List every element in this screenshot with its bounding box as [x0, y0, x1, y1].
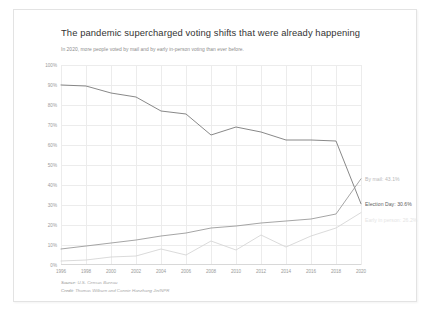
y-axis-tick-label: 70% [48, 123, 57, 128]
x-axis-tick-label: 1996 [56, 269, 66, 274]
x-axis-tick-label: 2000 [106, 269, 116, 274]
x-axis-tick-label: 2014 [281, 269, 291, 274]
y-axis-tick-label: 90% [48, 83, 57, 88]
annotation-election-day: Election Day: 30.6% [365, 201, 412, 207]
y-axis-tick-label: 20% [48, 223, 57, 228]
chart-title: The pandemic supercharged voting shifts … [61, 27, 401, 39]
x-axis-tick-label: 2020 [356, 269, 366, 274]
source-label: Source: [61, 280, 76, 285]
y-axis-tick-label: 100% [45, 63, 57, 68]
y-axis-tick-label: 60% [48, 143, 57, 148]
series-line [61, 179, 361, 249]
x-axis-tick-label: 2002 [131, 269, 141, 274]
x-axis-tick-label: 2016 [306, 269, 316, 274]
x-axis-tick-label: 2018 [331, 269, 341, 274]
chart-card: The pandemic supercharged voting shifts … [13, 9, 417, 302]
chart-subtitle: In 2020, more people voted by mail and b… [61, 46, 391, 53]
series-line [61, 85, 361, 204]
credit-line: Credit: Thomas Wilburn and Connie Hanzha… [61, 288, 169, 293]
y-axis-tick-label: 0% [50, 263, 57, 268]
x-axis-tick-label: 2012 [256, 269, 266, 274]
y-axis-tick-label: 50% [48, 163, 57, 168]
x-axis-tick-label: 2004 [156, 269, 166, 274]
annotation-by-mail: By mail: 43.1% [365, 176, 400, 182]
credit-label: Credit: [61, 288, 74, 293]
y-axis-tick-label: 30% [48, 203, 57, 208]
y-axis-tick-label: 80% [48, 103, 57, 108]
source-line: Source: U.S. Census Bureau [61, 280, 117, 285]
plot-area: 0%10%20%30%40%50%60%70%80%90%100% 199619… [61, 65, 361, 265]
x-axis-tick-label: 2010 [231, 269, 241, 274]
x-axis-tick-label: 2008 [206, 269, 216, 274]
x-axis-tick-label: 1998 [81, 269, 91, 274]
y-axis-tick-label: 10% [48, 243, 57, 248]
source-value: U.S. Census Bureau [77, 280, 117, 285]
series-lines [61, 65, 361, 265]
credit-value: Thomas Wilburn and Connie Hanzhang Jin/N… [75, 288, 169, 293]
y-axis-tick-label: 40% [48, 183, 57, 188]
gridline-vertical [361, 65, 362, 265]
chart-card-inner: The pandemic supercharged voting shifts … [14, 10, 416, 301]
annotation-early-in-person: Early in person: 26.2% [365, 217, 417, 223]
series-line [61, 213, 361, 261]
x-axis-tick-label: 2006 [181, 269, 191, 274]
